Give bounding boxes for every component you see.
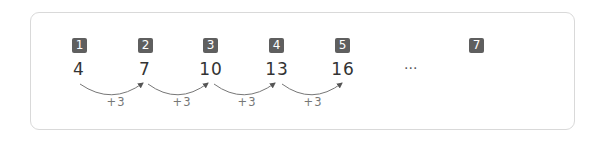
- arrow-icon: [282, 83, 342, 95]
- step-label: +3: [293, 95, 333, 109]
- step-label: +3: [227, 95, 267, 109]
- arrow-icon: [80, 83, 143, 95]
- arrow-icon: [148, 83, 208, 95]
- step-label: +3: [96, 95, 136, 109]
- arrow-icon: [214, 83, 275, 95]
- step-label: +3: [162, 95, 202, 109]
- step-arrows: [0, 0, 605, 141]
